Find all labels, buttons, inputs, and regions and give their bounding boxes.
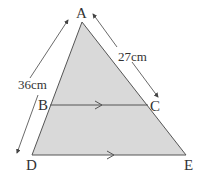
diagram: A B C D E 36cm 27cm [0,0,207,180]
label-C: C [150,98,160,114]
measure-arrow-AD-upper [30,20,68,78]
label-E: E [184,157,193,173]
measure-label-AC: 27cm [118,49,147,64]
measure-arrow-AD-lower [17,95,38,153]
measure-label-AD: 36cm [18,77,47,92]
triangle-diagram: A B C D E 36cm 27cm [0,0,207,180]
label-A: A [76,5,87,21]
label-B: B [38,97,48,113]
triangle-ADE [32,22,186,155]
label-D: D [26,157,37,173]
